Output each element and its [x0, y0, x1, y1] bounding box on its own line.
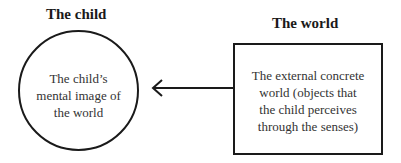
box-line-1: The external concrete — [235, 67, 381, 84]
box-line-3: the child perceives — [235, 101, 381, 118]
heading-the-world: The world — [272, 15, 338, 32]
circle-line-2: mental image of — [18, 87, 139, 104]
box-line-2: world (objects that — [235, 84, 381, 101]
arrow-left-icon — [150, 78, 236, 98]
circle-line-3: the world — [18, 104, 139, 121]
heading-the-child: The child — [46, 6, 106, 23]
world-box-text: The external concrete world (objects tha… — [235, 67, 381, 135]
box-line-4: through the senses) — [235, 118, 381, 135]
circle-line-1: The child’s — [18, 70, 139, 87]
child-circle-text: The child’s mental image of the world — [18, 70, 139, 121]
